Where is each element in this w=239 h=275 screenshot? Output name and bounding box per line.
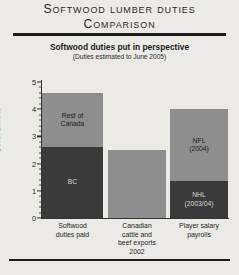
bar <box>108 150 166 218</box>
y-axis-minor-tick-mark <box>39 212 41 213</box>
y-axis-minor-tick-mark <box>39 158 41 159</box>
y-axis-tick-label: 0 <box>32 214 36 223</box>
y-axis-minor-tick-mark <box>39 207 41 208</box>
y-axis-minor-tick-mark <box>39 147 41 148</box>
y-axis-minor-tick-mark <box>39 130 41 131</box>
chart-title-line-1: Softwood Lumber Duties <box>0 2 239 17</box>
y-axis-minor-tick-mark <box>39 152 41 153</box>
y-axis-tick-mark <box>37 190 41 191</box>
plot-area: 012345BCRest of CanadaNHL (2003/04)NFL (… <box>42 82 229 218</box>
y-axis-minor-tick-mark <box>39 103 41 104</box>
y-axis-tick-label: 5 <box>32 78 36 87</box>
y-axis-tick-label: 2 <box>32 159 36 168</box>
y-axis-minor-tick-mark <box>39 174 41 175</box>
bar-segment: NHL (2003/04) <box>170 181 228 218</box>
bar-segment: BC <box>42 147 103 218</box>
x-axis-category-label: Player salary payrolls <box>170 222 228 239</box>
title-divider <box>13 33 226 36</box>
y-axis-tick-mark <box>37 109 41 110</box>
y-axis-label: $U.S. Billions <box>0 108 2 152</box>
y-axis-minor-tick-mark <box>39 92 41 93</box>
y-axis-minor-tick-mark <box>39 185 41 186</box>
chart-title: Softwood Lumber Duties Comparison <box>0 2 239 31</box>
y-axis-minor-tick-mark <box>39 141 41 142</box>
bar-segment: NFL (2004) <box>170 109 228 181</box>
y-axis-tick-mark <box>37 217 41 218</box>
chart-subtitle-note: (Duties estimated to June 2005) <box>0 52 239 61</box>
bar-segment-label: BC <box>68 178 77 186</box>
y-axis-minor-tick-mark <box>39 169 41 170</box>
x-axis-category-label: Softwood duties paid <box>42 222 103 239</box>
y-axis-minor-tick-mark <box>39 179 41 180</box>
y-axis-minor-tick-mark <box>39 125 41 126</box>
chart-title-line-2: Comparison <box>0 17 239 32</box>
bar-segment-label: NHL (2003/04) <box>184 191 213 208</box>
y-axis-minor-tick-mark <box>39 114 41 115</box>
y-axis-tick-mark <box>37 81 41 82</box>
chart-subtitle-main: Softwood duties put in perspective <box>0 42 239 52</box>
chart-subtitle: Softwood duties put in perspective (Duti… <box>0 42 239 61</box>
y-axis-tick-mark <box>37 163 41 164</box>
y-axis-minor-tick-mark <box>39 120 41 121</box>
y-axis-tick-label: 1 <box>32 186 36 195</box>
y-axis-tick-label: 4 <box>32 105 36 114</box>
y-axis-minor-tick-mark <box>39 196 41 197</box>
y-axis-minor-tick-mark <box>39 98 41 99</box>
bar: BCRest of Canada <box>42 93 103 218</box>
y-axis-minor-tick-mark <box>39 87 41 88</box>
footer-divider <box>9 259 230 261</box>
y-axis-minor-tick-mark <box>39 201 41 202</box>
bar-segment <box>108 150 166 218</box>
y-axis-tick-label: 3 <box>32 132 36 141</box>
y-axis-tick-mark <box>37 136 41 137</box>
bar: NHL (2003/04)NFL (2004) <box>170 109 228 218</box>
x-axis-category-label: Canadian cattle and beef exports 2002 <box>108 222 166 256</box>
bar-segment: Rest of Canada <box>42 93 103 147</box>
bar-segment-label: Rest of Canada <box>61 112 85 129</box>
bar-segment-label: NFL (2004) <box>189 137 209 154</box>
chart-figure: Softwood Lumber Duties Comparison Softwo… <box>0 0 239 275</box>
